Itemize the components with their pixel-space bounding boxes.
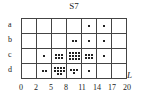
dot-marker xyxy=(43,55,45,57)
grid-cell xyxy=(37,49,52,64)
dot-marker xyxy=(61,54,63,56)
dot-marker xyxy=(75,40,77,42)
x-tick: 5 xyxy=(49,83,53,92)
dot-grid xyxy=(21,18,127,79)
dot-marker xyxy=(78,52,80,54)
axis-label-l: L xyxy=(127,70,132,80)
dot-marker xyxy=(72,58,74,60)
grid-cell xyxy=(22,19,37,34)
dot-marker xyxy=(73,72,75,74)
grid-cell xyxy=(52,64,67,79)
row-label-b: b xyxy=(8,35,12,44)
row-label-d: d xyxy=(8,65,12,74)
dot-marker xyxy=(58,54,60,56)
dot-marker xyxy=(78,58,80,60)
x-tick: 2 xyxy=(34,83,38,92)
dot-marker xyxy=(63,70,65,72)
dot-marker xyxy=(54,70,56,72)
dot-marker xyxy=(42,70,44,72)
dot-marker xyxy=(91,57,93,59)
dot-marker xyxy=(60,67,62,69)
dot-marker xyxy=(55,57,57,59)
dot-marker xyxy=(85,54,87,56)
grid-cell xyxy=(67,34,82,49)
dot-marker xyxy=(69,55,71,57)
dot-marker xyxy=(88,25,90,27)
dot-marker xyxy=(103,25,105,27)
dot-marker xyxy=(88,57,90,59)
grid-cell xyxy=(22,64,37,79)
dot-marker xyxy=(69,58,71,60)
grid-cell xyxy=(67,49,82,64)
dot-marker xyxy=(70,69,72,71)
grid-cell xyxy=(82,49,97,64)
dot-marker xyxy=(103,55,105,57)
x-tick: 11 xyxy=(78,83,86,92)
grid-row-a xyxy=(22,19,127,34)
dot-marker xyxy=(57,73,59,75)
dot-marker xyxy=(60,70,62,72)
dot-marker xyxy=(73,69,75,71)
grid-row-b xyxy=(22,34,127,49)
dot-marker xyxy=(103,40,105,42)
grid-cell xyxy=(52,19,67,34)
grid-cell xyxy=(52,34,67,49)
grid-cell xyxy=(52,49,67,64)
x-tick: 17 xyxy=(108,83,116,92)
dot-marker xyxy=(75,52,77,54)
dot-marker xyxy=(63,67,65,69)
dot-marker xyxy=(58,57,60,59)
dot-marker xyxy=(69,52,71,54)
x-tick: 20 xyxy=(123,83,131,92)
grid-cell xyxy=(82,64,97,79)
grid-cell xyxy=(37,34,52,49)
chart-title: S7 xyxy=(2,1,144,11)
dot-marker xyxy=(57,70,59,72)
grid-cell xyxy=(97,34,112,49)
grid-row-d xyxy=(22,64,127,79)
grid-cell xyxy=(82,34,97,49)
grid-cell xyxy=(67,19,82,34)
dot-marker xyxy=(78,55,80,57)
dot-marker xyxy=(88,54,90,56)
grid-cell xyxy=(112,34,127,49)
grid-cell xyxy=(97,64,112,79)
grid-cell xyxy=(67,64,82,79)
row-label-c: c xyxy=(8,50,12,59)
x-tick: 8 xyxy=(64,83,68,92)
dot-marker xyxy=(75,58,77,60)
grid-cell xyxy=(97,19,112,34)
grid-cell xyxy=(97,49,112,64)
grid-row-c xyxy=(22,49,127,64)
dot-marker xyxy=(88,70,90,72)
dot-marker xyxy=(75,55,77,57)
grid-cell xyxy=(22,34,37,49)
dot-marker xyxy=(72,52,74,54)
dot-marker xyxy=(88,40,90,42)
x-tick: 0 xyxy=(19,83,23,92)
dot-marker xyxy=(85,57,87,59)
grid-cell xyxy=(22,49,37,64)
dot-marker xyxy=(61,57,63,59)
dot-marker xyxy=(60,73,62,75)
row-label-a: a xyxy=(8,20,12,29)
grid-cell xyxy=(37,64,52,79)
dot-marker xyxy=(45,70,47,72)
dot-marker xyxy=(72,40,74,42)
grid-cell xyxy=(112,64,127,79)
dot-marker xyxy=(55,54,57,56)
dot-marker xyxy=(57,67,59,69)
dot-marker xyxy=(72,55,74,57)
grid-cell xyxy=(82,19,97,34)
dot-marker xyxy=(54,67,56,69)
grid-cell xyxy=(112,19,127,34)
dot-marker xyxy=(91,54,93,56)
dot-marker xyxy=(76,69,78,71)
x-tick: 14 xyxy=(93,83,101,92)
grid-cell xyxy=(112,49,127,64)
grid-cell xyxy=(37,19,52,34)
